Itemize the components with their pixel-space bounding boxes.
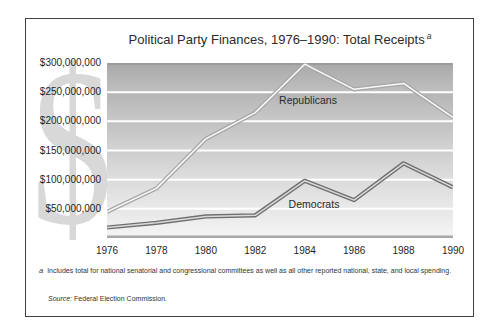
x-tick-label: 1980: [189, 245, 223, 257]
series-label-democrats: Democrats: [289, 198, 340, 210]
y-tick-label: $300,000,000: [31, 57, 101, 69]
series-label-republicans: Republicans: [279, 94, 337, 106]
chart-title: Political Party Finances, 1976–1990: Tot…: [107, 31, 453, 47]
y-tick-label: $150,000,000: [31, 145, 101, 157]
source-text: Federal Election Commission.: [72, 295, 167, 302]
chart-frame: $ Political Party Finances, 1976–1990: T…: [25, 18, 474, 317]
x-tick-label: 1976: [90, 245, 124, 257]
source-label: Source:: [48, 295, 72, 302]
plot-area: Republicans Democrats: [107, 63, 453, 238]
y-tick-label: $250,000,000: [31, 86, 101, 98]
x-tick-label: 1978: [139, 245, 173, 257]
chart-title-text: Political Party Finances, 1976–1990: Tot…: [129, 32, 425, 47]
x-tick-label: 1982: [238, 245, 272, 257]
x-tick-label: 1988: [387, 245, 421, 257]
y-tick-label: $200,000,000: [31, 115, 101, 127]
chart-canvas: [107, 63, 453, 238]
y-tick-label: $100,000,000: [31, 174, 101, 186]
x-tick-label: 1986: [337, 245, 371, 257]
figure: $ Political Party Finances, 1976–1990: T…: [0, 0, 498, 334]
footnote-marker: a: [39, 266, 43, 275]
chart-title-footnote-marker: a: [427, 31, 432, 41]
footnote: a Includes total for national senatorial…: [39, 266, 463, 276]
x-tick-label: 1990: [436, 245, 470, 257]
x-tick-label: 1984: [288, 245, 322, 257]
plot-band: [107, 121, 453, 150]
y-tick-label: $50,000,000: [31, 203, 101, 215]
source-line: Source: Federal Election Commission.: [48, 295, 167, 302]
footnote-text: Includes total for national senatorial a…: [47, 266, 459, 276]
